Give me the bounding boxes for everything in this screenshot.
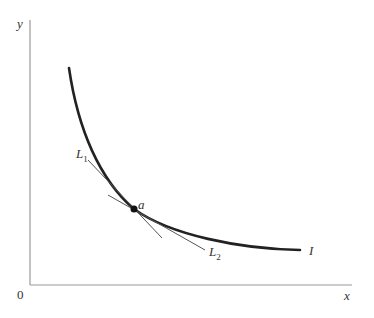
x-axis-label: x <box>344 289 350 302</box>
point-a-marker <box>131 206 138 213</box>
origin-label: 0 <box>17 288 24 301</box>
line-l1-label: L1 <box>76 147 88 164</box>
line-l2-label: L2 <box>209 245 221 262</box>
line-l2-label-sub: 2 <box>216 252 221 262</box>
point-a-label: a <box>138 198 145 211</box>
y-axis-label: y <box>17 17 23 30</box>
line-l1 <box>88 160 162 238</box>
line-l2 <box>108 195 205 250</box>
indifference-curve-i <box>69 68 300 250</box>
curve-i-label: I <box>309 244 313 257</box>
diagram-canvas <box>0 0 374 318</box>
line-l1-label-sub: 1 <box>83 154 88 164</box>
